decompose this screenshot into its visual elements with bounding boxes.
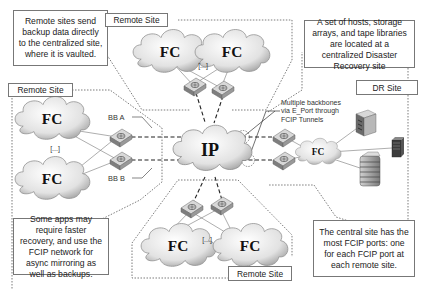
- svg-text:FC: FC: [312, 147, 325, 157]
- svg-text:FC: FC: [42, 170, 62, 187]
- left-site-fc-cloud-1: FC: [15, 97, 90, 140]
- site-label-dr: DR Site: [356, 80, 418, 95]
- note-top-right: A set of hosts, storage arrays, and tape…: [304, 20, 415, 68]
- left-site-switch-bb-a: [110, 129, 132, 147]
- top-site-ellipsis: [...]: [198, 62, 208, 70]
- top-site-switch-a: [184, 78, 206, 96]
- tape-library-icon: [360, 152, 380, 186]
- bottom-site-fc-cloud-2: FC: [213, 224, 288, 267]
- ip-cloud: IP: [173, 125, 252, 170]
- storage-array-icon: [356, 110, 376, 136]
- left-site-fc-cloud-2: FC: [15, 157, 90, 200]
- note-top-left: Remote sites send backup data directly t…: [13, 10, 108, 66]
- svg-text:FC: FC: [240, 237, 260, 254]
- left-site-switch-bb-b: [110, 152, 132, 170]
- svg-text:IP: IP: [201, 140, 219, 160]
- cloud-label: FC: [160, 43, 180, 60]
- left-site-ellipsis: [...]: [50, 145, 60, 153]
- site-label-bottom-remote: Remote Site: [228, 266, 292, 281]
- cloud-label: FC: [222, 43, 242, 60]
- svg-text:FC: FC: [42, 110, 62, 127]
- svg-text:FC: FC: [168, 237, 188, 254]
- label-bb-a: BB A: [108, 113, 124, 122]
- bottom-site-switch-a: [181, 200, 203, 218]
- site-label-left-remote: Remote Site: [8, 83, 73, 97]
- dr-site-switch-a: [273, 129, 295, 147]
- bottom-site-fc-cloud-1: FC: [141, 224, 216, 267]
- note-bottom-right: The central site has the most FCIP ports…: [313, 220, 415, 277]
- dr-site-fc-cloud: FC: [295, 138, 341, 164]
- server-tower-icon: [392, 137, 404, 157]
- note-bottom-left: Some apps may require faster recovery, a…: [13, 218, 109, 275]
- bottom-site-switch-b: [211, 197, 233, 215]
- callout-multiple-backbones: Multiple backbones via E_Port through FC…: [281, 99, 341, 124]
- bottom-site-ellipsis: [...]: [202, 236, 212, 244]
- label-bb-b: BB B: [108, 174, 125, 183]
- dr-site-switch-b: [273, 152, 295, 170]
- site-label-top-remote: Remote Site: [105, 13, 168, 27]
- top-site-switch-b: [212, 81, 234, 99]
